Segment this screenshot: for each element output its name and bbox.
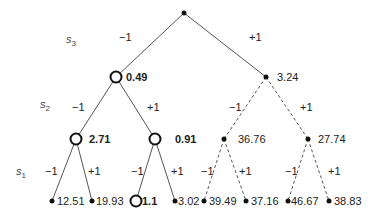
- node-rl: [222, 137, 227, 142]
- edge-label-rr-plus: +1: [328, 166, 341, 177]
- edge-label-lr-plus: +1: [171, 166, 184, 177]
- edge-label-lr-minus: −1: [131, 166, 144, 177]
- node-value-ll: 2.71: [89, 134, 110, 145]
- edge-label-l-plus: +1: [147, 102, 160, 113]
- edge-label-root-minus: −1: [119, 32, 132, 43]
- node-rr: [306, 137, 311, 142]
- leaf-7: [286, 199, 291, 204]
- leaf-value-1: 12.51: [57, 196, 85, 207]
- leaf-value-2: 19.93: [96, 196, 124, 207]
- leaf-6: [244, 199, 249, 204]
- edge-root-left: [116, 13, 184, 77]
- leaf-value-5: 39.49: [209, 196, 237, 207]
- leaf-5: [202, 199, 207, 204]
- edge-label-l-minus: −1: [72, 102, 85, 113]
- leaf-2: [90, 199, 95, 204]
- node-root: [182, 11, 187, 16]
- leaf-4: [173, 199, 178, 204]
- node-value-l: 0.49: [126, 72, 147, 83]
- edge-label-ll-plus: +1: [88, 166, 101, 177]
- edge-label-rl-minus: −1: [201, 166, 214, 177]
- node-value-rl: 36.76: [238, 134, 266, 145]
- tree-diagram: s3 s2 s1 −1 +1 −1 +1 −1 +1 −1 +1 −1 +1 −…: [0, 0, 374, 221]
- level-label-s1: s1: [16, 166, 26, 180]
- edge-rr-leaf8: [308, 139, 329, 201]
- leaf-value-8: 38.83: [334, 196, 362, 207]
- node-lr-open: [150, 134, 161, 145]
- edge-label-r-plus: +1: [300, 102, 313, 113]
- leaf-3-open: [131, 196, 142, 207]
- level-label-s3: s3: [66, 34, 76, 48]
- leaf-1: [50, 199, 55, 204]
- tree-edges: [0, 0, 374, 221]
- leaf-value-7: 46.67: [291, 196, 319, 207]
- node-ll-open: [71, 134, 82, 145]
- edge-root-right: [184, 13, 266, 77]
- node-value-lr: 0.91: [175, 134, 196, 145]
- node-value-r: 3.24: [277, 72, 298, 83]
- node-l-open: [111, 72, 122, 83]
- edge-label-ll-minus: −1: [45, 166, 58, 177]
- edge-label-rl-plus: +1: [239, 166, 252, 177]
- node-value-rr: 27.74: [318, 134, 346, 145]
- edge-label-rr-minus: −1: [285, 166, 298, 177]
- leaf-value-6: 37.16: [251, 196, 279, 207]
- level-label-s2: s2: [40, 99, 50, 113]
- leaf-value-3: 1.1: [142, 196, 157, 207]
- leaf-value-4: 3.02: [178, 196, 199, 207]
- node-r: [264, 75, 269, 80]
- edge-label-r-minus: −1: [229, 102, 242, 113]
- edge-label-root-plus: +1: [249, 32, 262, 43]
- leaf-8: [327, 199, 332, 204]
